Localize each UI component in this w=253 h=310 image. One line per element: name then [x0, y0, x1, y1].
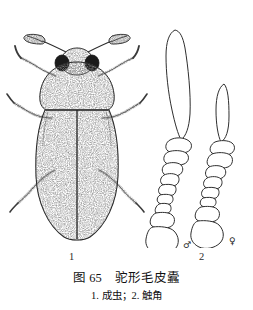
- antenna-female-club: [216, 84, 229, 142]
- male-symbol-glyph: ♂: [183, 240, 191, 248]
- beetle-pronotum: [40, 62, 114, 110]
- caption-title: 图 65 驼形毛皮蠹: [0, 270, 253, 286]
- antenna-male: ♂: [146, 30, 192, 248]
- figure-index-antenna: 2: [199, 252, 204, 263]
- antenna-female: ♀: [191, 84, 236, 248]
- beetle-elytra: [36, 110, 118, 240]
- illustration-area: ♂ ♀: [0, 0, 253, 248]
- beetle-antenna-left: [24, 34, 66, 52]
- caption-legend: 1. 成虫；2. 触角: [0, 288, 253, 303]
- antenna-male-scape: [146, 227, 178, 248]
- specimen-illustration: ♂ ♀: [0, 0, 253, 248]
- antenna-female-scape: [191, 221, 223, 248]
- antenna-male-club: [166, 30, 190, 140]
- female-symbol-glyph: ♀: [229, 236, 236, 246]
- figure-index-adult: 1: [69, 252, 74, 263]
- beetle-adult: [7, 34, 147, 240]
- figure-plate: ♂ ♀ 1 2 图: [0, 0, 253, 310]
- beetle-antenna-right: [88, 34, 130, 52]
- figure-caption: 图 65 驼形毛皮蠹 1. 成虫；2. 触角: [0, 270, 253, 303]
